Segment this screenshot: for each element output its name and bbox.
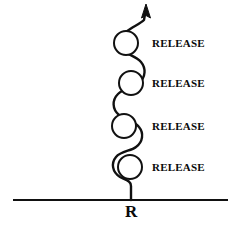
- release-label-4: RELEASE: [152, 162, 205, 173]
- node-circle: [119, 71, 143, 95]
- release-label-3: RELEASE: [152, 121, 205, 132]
- release-label-1: RELEASE: [152, 38, 205, 49]
- release-diagram: RELEASE RELEASE RELEASE RELEASE R: [0, 0, 230, 229]
- node-circle: [114, 31, 138, 55]
- origin-label-r: R: [125, 203, 137, 220]
- node-circle: [112, 114, 136, 138]
- diagram-canvas: [0, 0, 230, 229]
- node-circle: [118, 155, 142, 179]
- arrow-head-icon: [142, 4, 151, 18]
- release-label-2: RELEASE: [152, 78, 205, 89]
